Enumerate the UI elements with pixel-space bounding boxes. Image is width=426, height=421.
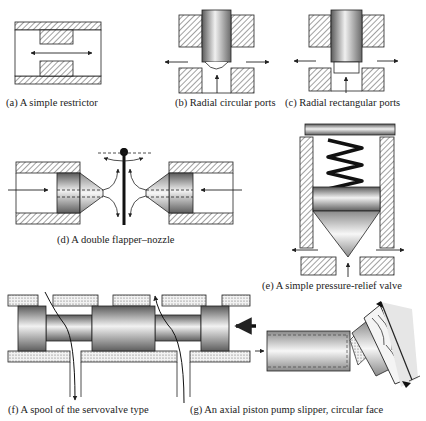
panel-g-slipper xyxy=(255,301,420,388)
panel-c-rectangular-ports xyxy=(294,10,398,93)
caption-g: (g) An axial piston pump slipper, circul… xyxy=(190,404,383,415)
panel-d-flapper-nozzle xyxy=(8,148,242,225)
caption-e: (e) A simple pressure-relief valve xyxy=(262,280,402,291)
panel-e-relief-valve xyxy=(292,124,404,277)
caption-c: (c) Radial rectangular ports xyxy=(285,97,400,108)
panel-a-restrictor xyxy=(15,22,101,84)
panel-b-circular-ports xyxy=(165,10,269,93)
panel-f-spool xyxy=(8,292,256,403)
caption-b: (b) Radial circular ports xyxy=(175,97,276,108)
caption-f: (f) A spool of the servovalve type xyxy=(8,404,149,415)
caption-a: (a) A simple restrictor xyxy=(6,97,98,108)
caption-d: (d) A double flapper–nozzle xyxy=(57,234,175,245)
diagram-canvas xyxy=(0,0,426,421)
